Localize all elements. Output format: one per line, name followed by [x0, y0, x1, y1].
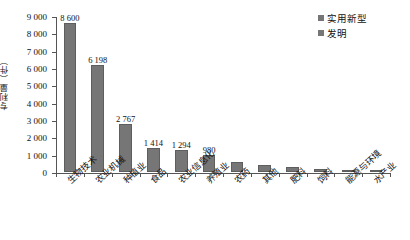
plot-area: 01 0002 0003 0004 0005 0006 0007 0008 00…	[56, 17, 390, 173]
y-axis-title: 专利量（件）	[1, 56, 15, 110]
y-tick-label: 8 000	[27, 29, 47, 39]
y-axis-line	[56, 17, 57, 174]
y-tick-label: 3 000	[27, 116, 47, 126]
y-tick: 6 000	[52, 69, 56, 70]
legend-swatch-icon	[318, 15, 324, 21]
legend-label: 发明	[327, 26, 347, 40]
y-tick-label: 1 000	[27, 151, 47, 161]
y-tick: 4 000	[52, 104, 56, 105]
y-tick: 7 000	[52, 52, 56, 53]
y-tick: 3 000	[52, 121, 56, 122]
legend: 实用新型 发明	[318, 10, 406, 40]
bar[interactable]: 8 600	[64, 23, 77, 172]
y-tick-label: 4 000	[27, 99, 47, 109]
bar-value-label: 8 600	[60, 13, 79, 23]
y-tick-label: 0	[43, 168, 48, 178]
bar-value-label: 2 767	[116, 114, 135, 124]
legend-label: 实用新型	[327, 11, 367, 25]
x-axis-labels: 生物技术农业机械种植业食品农业信息化养殖业农药其他肥料饲料能源与环境水产业	[56, 177, 410, 240]
y-tick-label: 6 000	[27, 64, 47, 74]
bar-value-label: 6 198	[88, 55, 107, 65]
y-tick-label: 5 000	[27, 81, 47, 91]
y-tick: 9 000	[52, 17, 56, 18]
y-tick: 8 000	[52, 34, 56, 35]
y-tick: 5 000	[52, 86, 56, 87]
legend-item-0[interactable]: 实用新型	[318, 10, 406, 25]
bar-value-label: 1 294	[172, 140, 191, 150]
bar-chart: 专利量（件） 01 0002 0003 0004 0005 0006 0007 …	[0, 0, 410, 240]
y-tick-label: 2 000	[27, 133, 47, 143]
y-tick: 2 000	[52, 138, 56, 139]
y-tick-label: 7 000	[27, 47, 47, 57]
legend-item-1[interactable]: 发明	[318, 25, 406, 40]
bar-value-label: 1 414	[144, 138, 163, 148]
y-tick: 1 000	[52, 156, 56, 157]
legend-swatch-icon	[318, 30, 324, 36]
y-tick-label: 9 000	[27, 12, 47, 22]
